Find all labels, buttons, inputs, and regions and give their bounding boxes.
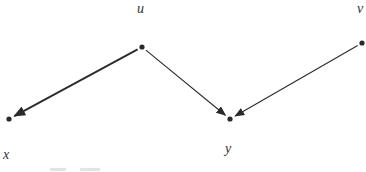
edge-v-to-y [235,45,357,116]
edge-u-to-y [146,50,225,115]
node-y [227,116,232,121]
node-label-x: x [3,148,9,162]
node-label-y: y [225,142,231,156]
caption-fragment [50,168,66,171]
node-u [139,44,144,49]
edge-u-to-x [14,49,137,116]
node-v [359,40,364,45]
caption-fragment [80,168,100,171]
node-x [6,116,11,121]
node-label-u: u [137,2,144,16]
directed-graph [0,0,366,172]
node-label-v: v [357,2,363,16]
